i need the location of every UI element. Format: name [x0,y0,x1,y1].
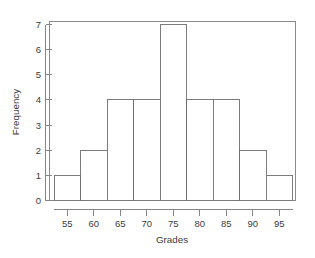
y-axis-tick-label: 6 [36,44,41,55]
y-axis-tick-label: 2 [36,145,41,156]
histogram-bar [213,100,240,201]
x-axis-tick-label: 95 [274,218,285,229]
x-axis-tick-label: 60 [88,218,99,229]
histogram-figure: 01234567 556065707580859095 Grades Frequ… [0,0,315,258]
histogram-bar [187,100,214,201]
x-axis-tick-label: 90 [247,218,258,229]
x-axis-tick-label: 70 [141,218,152,229]
y-axis-tick-label: 4 [36,94,41,105]
x-axis-tick-label: 65 [115,218,126,229]
y-axis-tick-label: 1 [36,170,41,181]
histogram-bar [134,100,161,201]
histogram-bar [54,175,81,200]
x-axis-tick-label: 55 [62,218,73,229]
histogram-bar [107,100,134,201]
x-axis-tick-label: 75 [168,218,179,229]
x-axis-tick-label: 85 [221,218,232,229]
histogram-svg: 01234567 556065707580859095 Grades Frequ… [0,0,315,258]
x-axis-tick-label: 80 [194,218,205,229]
y-axis-tick-label: 5 [36,69,41,80]
histogram-bar [266,175,293,200]
y-axis-title: Frequency [10,89,21,135]
y-axis-tick-label: 7 [36,19,41,30]
y-axis-tick-label: 3 [36,120,41,131]
histogram-bar [240,150,267,200]
histogram-bar [160,25,187,201]
y-axis-tick-label: 0 [36,195,41,206]
x-axis-title: Grades [156,234,188,245]
histogram-bar [81,150,108,200]
